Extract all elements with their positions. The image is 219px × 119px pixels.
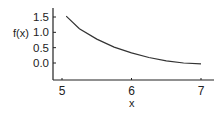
y-tick-label: 0.0 — [33, 57, 49, 69]
y-tick-label: 1.0 — [33, 26, 49, 38]
series-line — [66, 16, 201, 64]
x-tick-label: 5 — [59, 84, 66, 98]
x-ticks: 567 — [59, 78, 205, 98]
y-axis-label: f(x) — [13, 27, 29, 39]
x-tick-label: 7 — [198, 84, 205, 98]
x-axis-label: x — [129, 97, 135, 109]
line-chart: 1.51.00.50.0 567 f(x) x — [0, 0, 219, 119]
y-tick-label: 1.5 — [33, 11, 49, 23]
x-tick-label: 6 — [128, 84, 135, 98]
y-tick-label: 0.5 — [33, 42, 49, 54]
